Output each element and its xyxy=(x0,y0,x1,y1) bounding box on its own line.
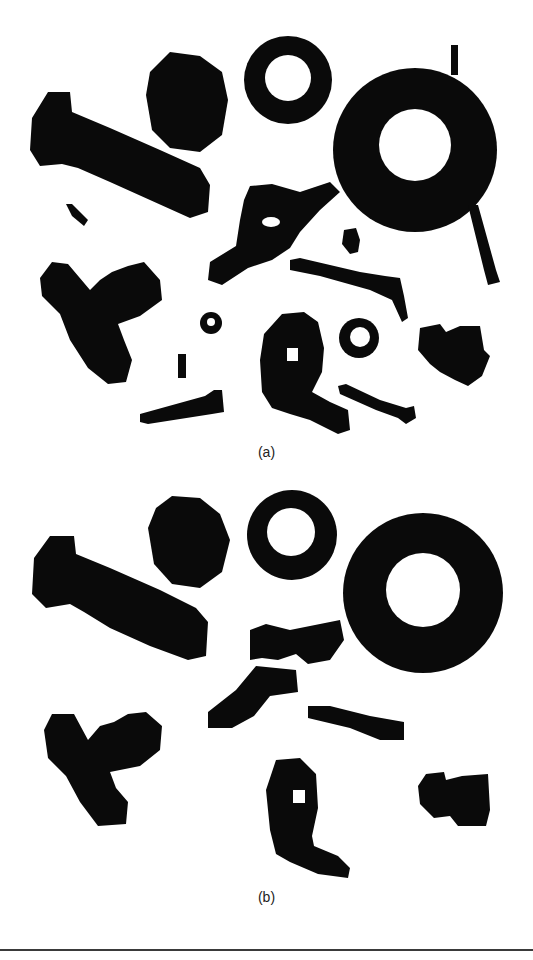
hex-nut-shape xyxy=(146,52,228,152)
y-shaped-shape xyxy=(44,712,162,826)
clip-shape xyxy=(266,758,350,878)
hex-nut-shape xyxy=(148,496,230,588)
short-rod-shape xyxy=(140,390,224,424)
binary-image-a xyxy=(0,0,533,440)
wing-nut-lower-shape xyxy=(208,666,298,728)
long-rod-shape xyxy=(308,706,404,740)
thin-rod-shape xyxy=(338,384,416,424)
butterfly-nut-shape xyxy=(418,324,490,386)
figure-panel-a xyxy=(0,0,533,440)
fragment-shape xyxy=(342,228,360,254)
caption-panel-a: (a) xyxy=(0,444,533,460)
rod-shape xyxy=(468,205,500,285)
butterfly-nut-shape xyxy=(418,772,490,826)
long-rod-shape xyxy=(290,258,408,322)
clip-shape xyxy=(260,312,350,434)
pin-shape xyxy=(451,45,458,75)
horizontal-rule xyxy=(0,949,533,951)
wing-nut-upper-shape xyxy=(250,620,344,664)
y-shaped-shape xyxy=(40,262,162,384)
figure-panel-b xyxy=(0,470,533,880)
caption-panel-b: (b) xyxy=(0,889,533,905)
fragment-shape xyxy=(178,354,186,378)
fragment-shape xyxy=(66,204,88,226)
binary-image-b xyxy=(0,470,533,880)
